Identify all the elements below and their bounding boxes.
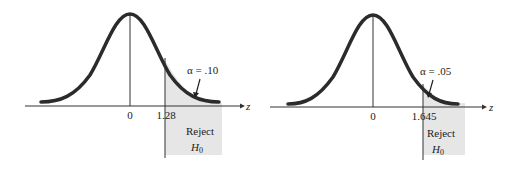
alpha-label: α = .10	[187, 64, 219, 76]
z-axis-label: z	[245, 100, 251, 112]
alpha-pointer	[196, 79, 200, 94]
alpha-pointer	[429, 80, 433, 94]
chart-left: z 0 1.28 α = .10 Reject H0	[25, 14, 251, 158]
reject-label: Reject	[186, 125, 214, 137]
tick-label-critical: 1.645	[412, 110, 437, 122]
tick-label-critical: 1.28	[156, 109, 176, 121]
alpha-label: α = .05	[420, 65, 452, 77]
tick-label-0: 0	[127, 109, 133, 121]
axis-arrow-icon	[240, 104, 245, 109]
tick-label-0: 0	[370, 110, 376, 122]
z-axis-label: z	[488, 101, 494, 113]
axis-arrow-icon	[482, 105, 487, 110]
chart-right: z 0 1.645 α = .05 Reject H0	[270, 15, 494, 160]
reject-label: Reject	[427, 127, 455, 139]
figure-canvas: z 0 1.28 α = .10 Reject H0 z 0 1.645 α =…	[0, 0, 513, 173]
